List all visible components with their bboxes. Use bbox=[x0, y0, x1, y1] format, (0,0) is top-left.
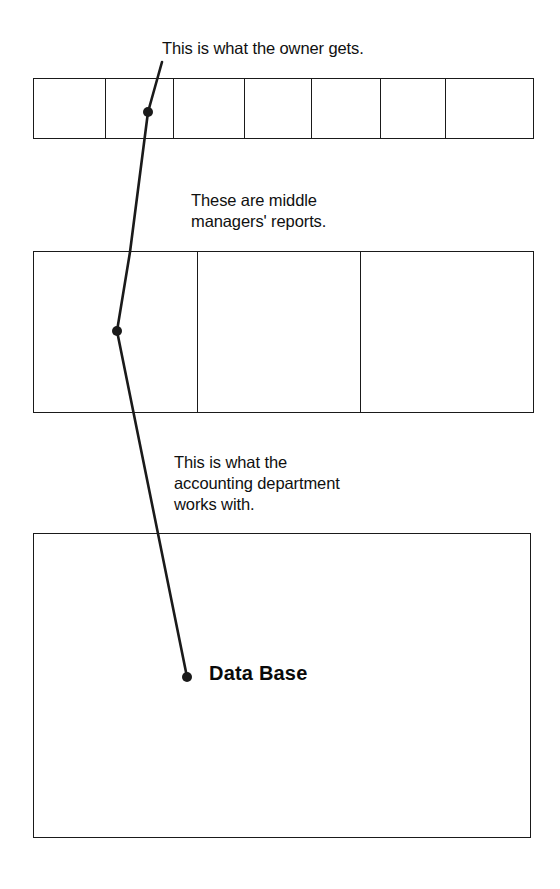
owner-cell bbox=[381, 79, 447, 138]
middle-manager-cell bbox=[361, 252, 533, 412]
middle-manager-cell bbox=[34, 252, 198, 412]
owner-cell bbox=[106, 79, 175, 138]
data-base-box bbox=[33, 533, 531, 838]
caption-middle-managers: These are middle managers' reports. bbox=[191, 190, 326, 232]
caption-owner: This is what the owner gets. bbox=[162, 38, 364, 59]
owner-cell bbox=[446, 79, 533, 138]
middle-managers-row bbox=[33, 251, 534, 413]
caption-accounting-department: This is what the accounting department w… bbox=[174, 452, 340, 515]
owner-cell bbox=[245, 79, 312, 138]
data-base-label: Data Base bbox=[209, 662, 308, 685]
owner-summary-row bbox=[33, 78, 534, 139]
owner-cell bbox=[312, 79, 381, 138]
owner-cell bbox=[34, 79, 106, 138]
owner-cell bbox=[174, 79, 245, 138]
middle-manager-cell bbox=[198, 252, 360, 412]
diagram-canvas: This is what the owner gets. These are m… bbox=[0, 0, 560, 889]
